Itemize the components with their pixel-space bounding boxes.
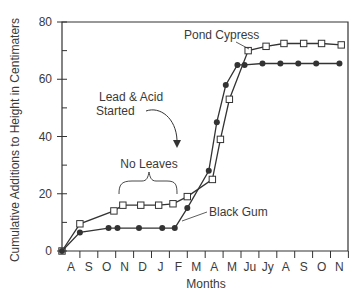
data-point-square — [300, 40, 306, 46]
data-point-square — [209, 176, 215, 182]
data-point-square — [217, 136, 223, 142]
pond-cypress-label: Pond Cypress — [184, 28, 259, 42]
x-tick-label: A — [282, 260, 290, 274]
x-tick-label: O — [102, 260, 111, 274]
x-tick-label: O — [317, 260, 326, 274]
x-tick-label: D — [138, 260, 147, 274]
data-point-circle — [214, 119, 220, 125]
no-leaves-brace-icon — [119, 172, 177, 194]
data-point-square — [77, 221, 83, 227]
y-tick-label: 80 — [39, 15, 53, 29]
x-tick-label: N — [335, 260, 344, 274]
data-point-circle — [206, 168, 212, 174]
data-point-square — [170, 201, 176, 207]
x-tick-label: Ju — [244, 260, 257, 274]
data-point-circle — [336, 61, 342, 67]
x-tick-label: A — [210, 260, 218, 274]
pond-cypress-leader-line — [236, 42, 249, 49]
plot-border — [62, 22, 348, 251]
data-point-circle — [184, 205, 190, 211]
x-tick-label: S — [85, 260, 93, 274]
y-axis-title: Cumulative Additions to Height in Centim… — [8, 18, 22, 262]
data-point-circle — [114, 225, 120, 231]
y-tick-label: 40 — [39, 130, 53, 144]
data-point-square — [263, 43, 269, 49]
x-axis-ticks: ASONDJFMAMJuJyASON — [67, 251, 348, 274]
y-tick-label: 60 — [39, 72, 53, 86]
data-point-square — [138, 202, 144, 208]
x-tick-label: M — [227, 260, 237, 274]
data-point-circle — [277, 61, 283, 67]
x-tick-label: M — [191, 260, 201, 274]
data-point-circle — [77, 229, 83, 235]
growth-chart: 020406080 ASONDJFMAMJuJyASON Months Cumu… — [0, 0, 364, 303]
data-point-circle — [172, 225, 178, 231]
data-point-circle — [223, 82, 229, 88]
x-tick-label: A — [67, 260, 75, 274]
data-point-square — [111, 208, 117, 214]
data-point-circle — [295, 61, 301, 67]
data-point-square — [338, 42, 344, 48]
y-tick-label: 0 — [45, 244, 52, 258]
data-point-circle — [313, 61, 319, 67]
lead-acid-annotation-line2: Started — [96, 104, 135, 118]
black-gum-leader-line — [182, 212, 207, 221]
black-gum-label: Black Gum — [209, 205, 268, 219]
data-point-circle — [242, 62, 248, 68]
x-tick-label: F — [175, 260, 182, 274]
data-point-circle — [136, 225, 142, 231]
x-tick-label: N — [120, 260, 129, 274]
plot-frame — [62, 22, 348, 251]
data-point-square — [184, 193, 190, 199]
y-tick-label: 20 — [39, 187, 53, 201]
x-tick-label: Jy — [262, 260, 274, 274]
lead-acid-arrowhead-icon — [173, 140, 181, 148]
series-pond-cypress — [59, 40, 345, 254]
x-tick-label: S — [300, 260, 308, 274]
x-tick-label: J — [157, 260, 163, 274]
data-point-square — [318, 40, 324, 46]
series-layer — [59, 40, 345, 254]
no-leaves-annotation: No Leaves — [120, 157, 177, 171]
data-point-square — [226, 96, 232, 102]
data-point-circle — [106, 225, 112, 231]
data-point-circle — [234, 62, 240, 68]
series-line — [62, 44, 341, 252]
lead-acid-arrow-icon — [146, 110, 177, 140]
data-point-circle — [259, 61, 265, 67]
lead-acid-annotation-line1: Lead & Acid — [99, 90, 163, 104]
data-point-circle — [59, 248, 65, 254]
data-point-square — [120, 202, 126, 208]
data-point-circle — [159, 225, 165, 231]
data-point-square — [155, 202, 161, 208]
data-point-square — [281, 40, 287, 46]
y-axis-ticks: 020406080 — [39, 15, 67, 258]
x-axis-title: Months — [186, 277, 225, 291]
